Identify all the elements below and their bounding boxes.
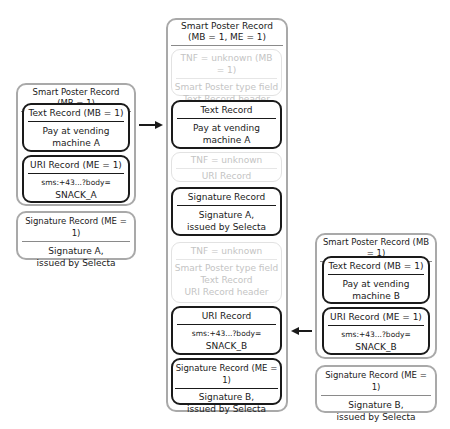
body-line: URI Record header: [172, 286, 281, 298]
center-text-record-body: Pay at vending machine A: [173, 119, 280, 146]
left-signature-body: Signature A, issued by Selecta: [18, 242, 134, 269]
body-line: Pay at vending: [24, 125, 128, 137]
center-text-record-header: Text Record: [177, 102, 276, 119]
center-smart-poster-title: Smart Poster Record (MB = 1, ME = 1): [171, 20, 283, 46]
left-signature-record: Signature Record (ME = 1) Signature A, i…: [16, 211, 136, 260]
body-line: machine A: [24, 137, 128, 149]
title-line: (MB = 1, ME = 1): [173, 32, 281, 43]
body-line: machine B: [324, 290, 428, 302]
center-signature-b-record: Signature Record (ME = 1) Signature B, i…: [171, 358, 282, 405]
title-line: Smart Poster Record: [173, 21, 281, 32]
left-text-record: Text Record (MB = 1) Pay at vending mach…: [22, 103, 130, 152]
body-line: Smart Poster type field: [172, 81, 281, 93]
body-line: Signature B,: [317, 399, 435, 411]
body-line: issued by Selecta: [18, 257, 134, 269]
right-signature-record: Signature Record (ME = 1) Signature B, i…: [315, 365, 437, 413]
body-line: Signature A,: [173, 209, 280, 221]
body-line: machine A: [173, 134, 280, 146]
body-line: SNACK_A: [24, 189, 128, 201]
left-arrow-icon: [298, 330, 312, 332]
right-signature-header: Signature Record (ME = 1): [321, 367, 431, 396]
center-uri-record-body: sms:+43...?body= SNACK_B: [173, 325, 280, 352]
center-uri-record-header: URI Record: [177, 308, 276, 325]
center-signature-b-header: Signature Record (ME = 1): [175, 360, 278, 389]
left-uri-record-body: sms:+43...?body= SNACK_A: [24, 174, 128, 201]
ghost2-header: TNF = unknown: [176, 153, 277, 169]
body-line: SNACK_B: [324, 341, 428, 353]
right-arrow-head-icon: [155, 121, 163, 129]
body-line: Smart Poster type field: [172, 262, 281, 274]
left-uri-record-header: URI Record (ME = 1): [28, 157, 124, 174]
left-signature-header: Signature Record (ME = 1): [22, 213, 130, 242]
right-text-record: Text Record (MB = 1) Pay at vending mach…: [322, 256, 430, 304]
right-arrow-icon: [139, 124, 156, 126]
right-smart-poster-record: Smart Poster Record (MB = 1) Text Record…: [315, 233, 437, 359]
body-line: Pay at vending: [324, 278, 428, 290]
body-line: Text Record: [172, 274, 281, 286]
left-uri-record: URI Record (ME = 1) sms:+43...?body= SNA…: [22, 155, 130, 203]
ghost3-header: TNF = unknown: [176, 243, 277, 260]
body-line: Signature B,: [173, 391, 280, 403]
body-line: issued by Selecta: [317, 411, 435, 423]
body-line: sms:+43...?body=: [24, 177, 128, 189]
center-signature-b-body: Signature B, issued by Selecta: [173, 389, 280, 415]
center-signature-a-body: Signature A, issued by Selecta: [173, 206, 280, 233]
body-line: SNACK_B: [173, 340, 280, 352]
body-line: Pay at vending: [173, 122, 280, 134]
ghost1-header: TNF = unknown (MB = 1): [176, 50, 277, 79]
right-uri-record: URI Record (ME = 1) sms:+43...?body= SNA…: [322, 307, 430, 355]
center-ghost-tnf-record-1: TNF = unknown (MB = 1) Smart Poster type…: [171, 49, 282, 96]
body-line: URI Record: [172, 170, 281, 182]
right-uri-record-header: URI Record (ME = 1): [328, 309, 424, 326]
body-line: sms:+43...?body=: [324, 329, 428, 341]
ghost3-body: Smart Poster type field Text Record URI …: [172, 260, 281, 298]
center-signature-a-header: Signature Record: [177, 189, 276, 206]
center-signature-a-record: Signature Record Signature A, issued by …: [171, 187, 282, 236]
body-line: Signature A,: [18, 245, 134, 257]
body-line: sms:+43...?body=: [173, 328, 280, 340]
right-signature-body: Signature B, issued by Selecta: [317, 396, 435, 423]
body-line: issued by Selecta: [173, 221, 280, 233]
left-text-record-body: Pay at vending machine A: [24, 122, 128, 149]
left-text-record-header: Text Record (MB = 1): [28, 105, 124, 122]
left-smart-poster-record: Smart Poster Record (MB = 1) Text Record…: [16, 83, 136, 206]
center-uri-record: URI Record sms:+43...?body= SNACK_B: [171, 306, 282, 355]
center-smart-poster-record: Smart Poster Record (MB = 1, ME = 1) TNF…: [166, 18, 288, 412]
body-line: issued by Selecta: [173, 403, 280, 415]
right-text-record-header: Text Record (MB = 1): [328, 258, 424, 275]
center-ghost-tnf-record-2: TNF = unknown URI Record: [171, 152, 282, 182]
right-uri-record-body: sms:+43...?body= SNACK_B: [324, 326, 428, 353]
center-text-record: Text Record Pay at vending machine A: [171, 100, 282, 149]
ghost2-body: URI Record: [172, 169, 281, 182]
center-ghost-tnf-record-3: TNF = unknown Smart Poster type field Te…: [171, 242, 282, 303]
right-text-record-body: Pay at vending machine B: [324, 275, 428, 302]
